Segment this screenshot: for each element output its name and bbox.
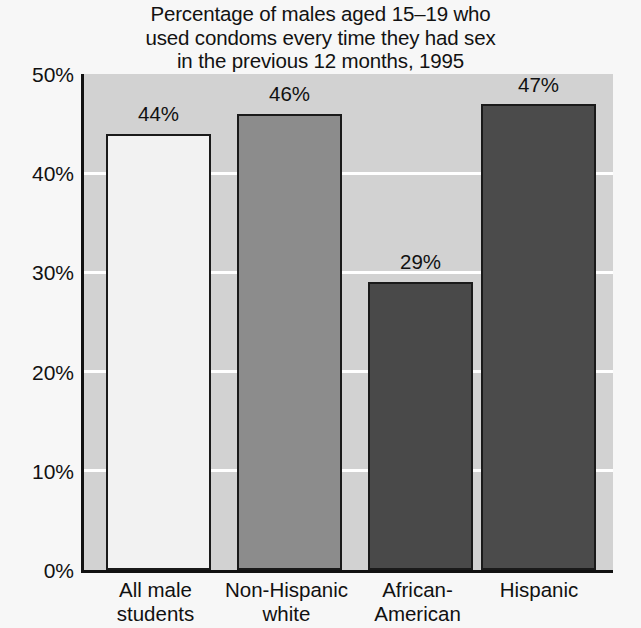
- bar-non-hispanic-white: [237, 114, 342, 570]
- bars-layer: 44% 46% 29% 47%: [84, 74, 613, 570]
- chart-title-line-3: in the previous 12 months, 1995: [0, 49, 641, 73]
- bar-all-male-students: [106, 134, 211, 571]
- chart-title: Percentage of males aged 15–19 who used …: [0, 2, 641, 73]
- y-tick-10: 10%: [32, 460, 74, 481]
- bar-value-hispanic: 47%: [518, 75, 559, 96]
- x-tick-non-hispanic-white-line-2: white: [225, 602, 348, 626]
- y-tick-40: 40%: [32, 163, 74, 184]
- bar-value-non-hispanic-white: 46%: [269, 84, 310, 105]
- y-tick-30: 30%: [32, 262, 74, 283]
- y-tick-20: 20%: [32, 361, 74, 382]
- x-tick-all-male-students-line-2: students: [117, 602, 195, 626]
- y-tick-50: 50%: [32, 64, 74, 85]
- x-tick-hispanic: Hispanic: [500, 578, 579, 602]
- x-tick-non-hispanic-white: Non-Hispanic white: [225, 578, 348, 626]
- y-axis: 50% 40% 30% 20% 10% 0%: [0, 74, 74, 570]
- bar-value-african-american: 29%: [400, 252, 441, 273]
- x-tick-all-male-students: All male students: [117, 578, 195, 626]
- x-tick-african-american: African- American: [374, 578, 461, 626]
- x-axis: All male students Non-Hispanic white Afr…: [81, 578, 613, 628]
- x-tick-all-male-students-line-1: All male: [117, 578, 195, 602]
- bar-hispanic: [481, 104, 596, 570]
- x-tick-african-american-line-1: African-: [374, 578, 461, 602]
- chart-title-line-1: Percentage of males aged 15–19 who: [0, 2, 641, 26]
- x-tick-non-hispanic-white-line-1: Non-Hispanic: [225, 578, 348, 602]
- x-tick-african-american-line-2: American: [374, 602, 461, 626]
- bar-african-american: [368, 282, 473, 570]
- chart-title-line-2: used condoms every time they had sex: [0, 26, 641, 50]
- bar-value-all-male-students: 44%: [138, 104, 179, 125]
- plot-area: 44% 46% 29% 47%: [81, 74, 613, 573]
- x-tick-hispanic-line-1: Hispanic: [500, 578, 579, 602]
- y-tick-0: 0%: [44, 560, 74, 581]
- bar-chart-figure: Percentage of males aged 15–19 who used …: [0, 0, 641, 628]
